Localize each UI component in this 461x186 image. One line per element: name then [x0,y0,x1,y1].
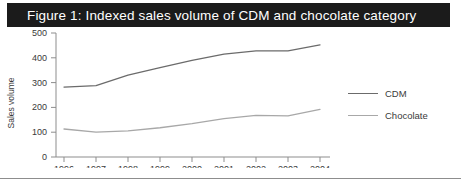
y-tick-label: 300 [32,78,47,88]
x-tick-label: 1999 [150,164,170,168]
x-tick-label: 2004 [310,164,330,168]
figure-title-bar: Figure 1: Indexed sales volume of CDM an… [7,3,450,27]
x-tick-label: 2003 [278,164,298,168]
x-tick-label: 2000 [182,164,202,168]
footer-divider [0,178,461,179]
x-tick-label: 1998 [118,164,138,168]
y-tick-label: 100 [32,127,47,137]
x-tick-label: 1996 [54,164,74,168]
x-axis-ticks [64,157,320,162]
y-axis-label: Sales volume [6,77,16,128]
legend-item-chocolate: Chocolate [348,104,456,126]
legend-item-cdm: CDM [348,82,456,104]
y-axis-ticks [51,33,56,157]
y-tick-label: 200 [32,102,47,112]
x-tick-label: 2002 [246,164,266,168]
x-axis-tick-labels: 1996 1997 1998 1999 2000 2001 2002 2003 … [54,164,330,168]
series-line-chocolate [64,109,320,132]
series-line-cdm [64,45,320,87]
legend-label: CDM [385,88,407,99]
figure-container: Figure 1: Indexed sales volume of CDM an… [0,0,461,186]
y-tick-label: 0 [42,152,47,162]
page-title: Figure 1: Indexed sales volume of CDM an… [27,8,416,23]
y-tick-label: 500 [32,28,47,38]
x-tick-label: 1997 [86,164,106,168]
y-tick-label: 400 [32,53,47,63]
legend-label: Chocolate [385,110,428,121]
legend-line-icon-chocolate [348,115,378,116]
chart-legend: CDM Chocolate [348,82,456,126]
y-axis-tick-labels: 0 100 200 300 400 500 [32,28,47,162]
legend-line-icon-cdm [348,93,378,94]
x-tick-label: 2001 [214,164,234,168]
